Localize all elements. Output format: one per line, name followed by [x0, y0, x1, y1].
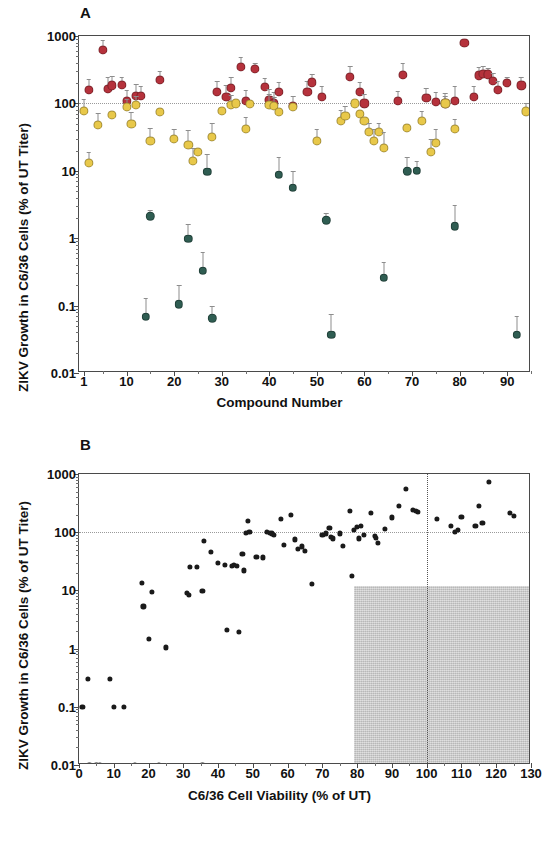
- x-tick-minor: [340, 763, 341, 766]
- y-tick-minor: [76, 332, 79, 333]
- data-point: [222, 563, 227, 568]
- x-tick-minor: [531, 371, 532, 374]
- error-bar-cap: [210, 123, 215, 124]
- data-point: [80, 704, 85, 709]
- y-tick-minor: [76, 538, 79, 539]
- error-bar-cap: [367, 123, 372, 124]
- data-point: [309, 581, 314, 586]
- panel-a-y-axis-title: ZIKV Growth in C6/36 Cells (% of UT Tite…: [16, 123, 31, 392]
- data-point: [426, 147, 435, 156]
- data-point: [487, 480, 492, 485]
- data-point: [149, 589, 154, 594]
- y-tick-minor: [76, 596, 79, 597]
- y-tick-minor: [76, 724, 79, 725]
- y-tick-minor: [76, 555, 79, 556]
- error-bar-cap: [329, 314, 334, 315]
- panel-a-y-tick-label: 100: [54, 96, 76, 111]
- y-tick-minor: [76, 679, 79, 680]
- data-point: [111, 704, 116, 709]
- y-tick-minor: [76, 285, 79, 286]
- data-point: [450, 124, 459, 133]
- y-tick-minor: [76, 71, 79, 72]
- y-tick-minor: [76, 249, 79, 250]
- data-point: [330, 536, 335, 541]
- x-tick-minor: [150, 371, 151, 374]
- y-tick-minor: [76, 487, 79, 488]
- data-point: [195, 565, 200, 570]
- data-point: [274, 107, 283, 116]
- panel-b-x-tick-label: 10: [107, 766, 121, 781]
- y-tick-minor: [76, 709, 79, 710]
- data-point: [139, 580, 144, 585]
- data-point: [379, 273, 387, 281]
- data-point: [236, 63, 245, 72]
- panel-b-y-axis-title: ZIKV Growth in C6/36 Cells (% of UT Tite…: [16, 501, 31, 770]
- data-point: [312, 136, 321, 145]
- data-point: [156, 762, 161, 763]
- data-point: [193, 147, 202, 156]
- data-point: [217, 106, 226, 115]
- data-point: [415, 509, 420, 514]
- error-bar-cap: [486, 68, 491, 69]
- data-point: [208, 132, 217, 141]
- error-bar-cap: [148, 210, 153, 211]
- error-bar-cap: [229, 95, 234, 96]
- panel-b-x-axis-title: C6/36 Cell Viability (% of UT): [0, 788, 559, 803]
- panel-a-letter: A: [80, 4, 91, 21]
- data-point: [341, 111, 350, 120]
- y-tick-minor: [76, 603, 79, 604]
- data-point: [431, 138, 440, 147]
- y-tick-minor: [76, 353, 79, 354]
- panel-a-x-tick-label: 10: [119, 374, 133, 389]
- data-point: [337, 531, 342, 536]
- data-point: [288, 512, 293, 517]
- y-tick-minor: [76, 712, 79, 713]
- panel-a-y-tick-label: 1: [69, 231, 76, 246]
- panel-b: B ZIKV Growth in C6/36 Cells (% of UT Ti…: [0, 430, 559, 843]
- error-bar-cap: [310, 74, 315, 75]
- x-tick-minor: [341, 371, 342, 374]
- data-point: [355, 87, 364, 96]
- data-point: [127, 119, 136, 128]
- data-point: [308, 78, 317, 87]
- data-point: [327, 331, 335, 339]
- y-tick-minor: [76, 63, 79, 64]
- data-point: [241, 124, 250, 133]
- panel-b-plot-area: 10001001010.10.0101020304050607080901001…: [78, 473, 530, 764]
- data-point: [379, 143, 388, 152]
- x-tick-minor: [388, 371, 389, 374]
- error-bar-cap: [158, 71, 163, 72]
- y-tick-minor: [76, 114, 79, 115]
- x-tick-minor: [479, 763, 480, 766]
- error-bar-cap: [505, 77, 510, 78]
- x-tick-minor: [436, 371, 437, 374]
- data-point: [85, 676, 90, 681]
- y-tick-minor: [76, 483, 79, 484]
- panel-b-y-tick-label: 1: [69, 641, 76, 656]
- error-bar-cap: [405, 157, 410, 158]
- y-tick-minor: [76, 730, 79, 731]
- data-point: [108, 111, 117, 120]
- data-point: [503, 79, 512, 88]
- error-bar-cap: [319, 86, 324, 87]
- error-bar-cap: [443, 96, 448, 97]
- panel-b-x-tick-label: 100: [416, 766, 438, 781]
- y-tick-minor: [76, 480, 79, 481]
- error-bar-cap: [514, 316, 519, 317]
- error-bar-cap: [443, 93, 448, 94]
- data-point: [246, 99, 255, 108]
- y-tick-minor: [76, 43, 79, 44]
- x-tick-minor: [235, 763, 236, 766]
- data-point: [240, 552, 245, 557]
- reference-line-x-100: [427, 474, 428, 763]
- error-bar-cap: [277, 157, 282, 158]
- data-point: [200, 588, 205, 593]
- y-tick-minor: [76, 118, 79, 119]
- panel-b-x-tick-label: 20: [141, 766, 155, 781]
- data-point: [282, 543, 287, 548]
- panel-b-x-tick-label: 110: [451, 766, 472, 781]
- panel-a-x-tick-label: 80: [452, 374, 466, 389]
- panel-a-y-tick-label: 0.01: [51, 366, 76, 381]
- panel-b-x-tick-label: 30: [176, 766, 190, 781]
- data-point: [275, 171, 283, 179]
